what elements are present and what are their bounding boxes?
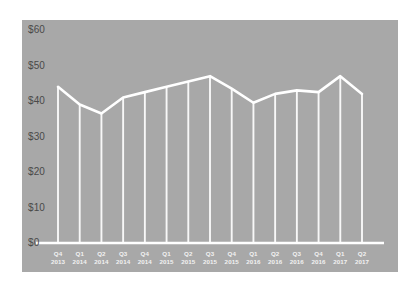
y-axis-tick-label: $60 [28,25,45,35]
y-axis-tick-label: $40 [28,96,45,106]
x-tick-year: 2017 [347,258,377,266]
y-axis-tick-label: $50 [28,61,45,71]
y-axis-tick-label: $10 [28,203,45,213]
plot-panel [22,20,398,272]
y-axis-tick-label: $0 [28,238,39,248]
x-axis-tick-label: Q22017 [347,250,377,266]
y-axis-tick-label: $30 [28,132,45,142]
y-axis-tick-label: $20 [28,167,45,177]
chart-container: $60$50$40$30$20$10$0 Q42013Q12014Q22014Q… [0,0,420,291]
chart-svg [22,20,398,272]
drop-line-group [58,76,362,243]
x-tick-quarter: Q2 [347,250,377,258]
